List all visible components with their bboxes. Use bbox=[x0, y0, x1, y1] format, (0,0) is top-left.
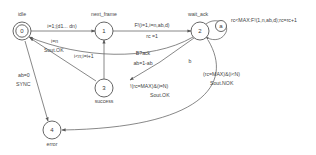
label-success-to-next-frame: i<n;i=i+1 bbox=[74, 53, 94, 59]
label-success-to-idle-line1: i=n bbox=[51, 38, 58, 44]
label-idle-to-error-line2: SYNC bbox=[16, 81, 31, 87]
label-wait-ack-to-error-line1: (rc=MAX)&(i<N) bbox=[203, 71, 240, 77]
label-wait-ack-to-success-line2: ab=1-ab bbox=[133, 60, 152, 66]
state-error-label: error bbox=[47, 141, 58, 147]
state-wait-ack-label: wait_ack bbox=[188, 11, 209, 17]
label-wait-ack-to-error-line2: Sout.NOK bbox=[210, 80, 234, 86]
label-idle-to-error-line1: ab=0 bbox=[18, 72, 30, 78]
transition-success-to-idle bbox=[30, 38, 96, 81]
label-idle-to-next-frame: i=1;(d1... dn) bbox=[47, 23, 77, 29]
label-wait-ack-to-success-line1: B?ack bbox=[136, 50, 151, 56]
label-success-to-idle-line2: Sout.OK bbox=[44, 47, 64, 53]
diagram-canvas: 0 idle 1 next_frame 2 wait_ack 3 success… bbox=[0, 0, 316, 155]
label-next-frame-to-wait-ack-line2: rc =1 bbox=[146, 33, 158, 39]
label-next-frame-to-wait-ack-line1: F!(i=1,i=n,ab,d) bbox=[134, 22, 169, 28]
label-self-loop-wait-ack: rc<MAX:F!(1,n,ab,d);rc=rc+1 bbox=[231, 17, 297, 23]
transition-wait-ack-to-success bbox=[130, 38, 194, 80]
state-idle-label: idle bbox=[18, 11, 26, 17]
label-branch-b: b bbox=[189, 58, 192, 64]
label-wait-ack-to-idle-line2: Sout.OK bbox=[150, 92, 170, 98]
state-success-label: success bbox=[95, 98, 114, 104]
label-wait-ack-to-idle-line1: !(rc=MAX)&(i=N) bbox=[130, 83, 169, 89]
state-next-frame-label: next_frame bbox=[91, 11, 117, 17]
state-machine-diagram: 0 idle 1 next_frame 2 wait_ack 3 success… bbox=[0, 0, 316, 155]
